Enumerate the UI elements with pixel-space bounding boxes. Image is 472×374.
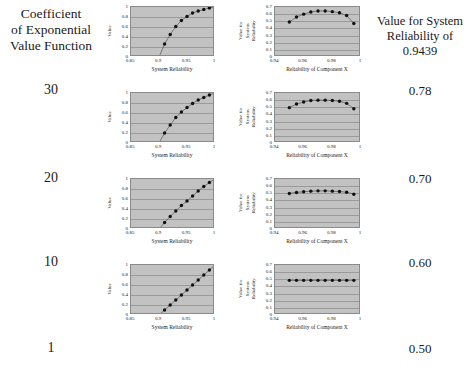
chart-component-x-coef-20: Value for System Reliability0.70.60.50.4… xyxy=(238,90,378,174)
y-axis-title: Value for System Reliability xyxy=(238,262,258,316)
left-header-line1: Coefficient xyxy=(0,6,102,22)
plot-area xyxy=(274,6,360,56)
x-tick-label: 0.94 xyxy=(270,144,279,150)
y-tick-labels: 10.80.60.40.20 xyxy=(113,92,129,142)
x-tick-label: 0.85 xyxy=(126,316,135,322)
y-tick-label: 0.6 xyxy=(266,11,272,16)
x-tick-label: 0.9 xyxy=(155,58,161,64)
right-column-header: Value for System Reliability of 0.9439 xyxy=(368,14,472,59)
y-tick-label: 0.7 xyxy=(266,90,272,95)
y-tick-label: 0.6 xyxy=(266,269,272,274)
x-tick-label: 1 xyxy=(359,144,362,150)
x-tick-label: 1 xyxy=(213,58,216,64)
chart-component-x-coef-10: Value for System Reliability0.70.60.50.4… xyxy=(238,176,378,260)
plot-area xyxy=(274,264,360,314)
y-tick-label: 0.4 xyxy=(122,34,128,39)
y-axis-title: Value for System Reliability xyxy=(238,4,258,58)
y-tick-label: 0.6 xyxy=(266,183,272,188)
y-tick-label: 0.4 xyxy=(266,283,272,288)
chart-value-function-coef-30: Value10.80.60.40.200.850.90.951System Re… xyxy=(104,4,228,88)
plot-area xyxy=(130,178,214,228)
y-tick-label: 0.4 xyxy=(266,197,272,202)
y-tick-labels: 10.80.60.40.20 xyxy=(113,6,129,56)
plot-area xyxy=(130,264,214,314)
x-tick-label: 1 xyxy=(359,58,362,64)
chart-component-x-coef-30: Value for System Reliability0.70.60.50.4… xyxy=(238,4,378,88)
x-tick-label: 0.9 xyxy=(155,144,161,150)
y-tick-label: 0.4 xyxy=(122,120,128,125)
system-value-row-3: 0.50 xyxy=(368,341,472,357)
x-tick-label: 0.96 xyxy=(298,144,307,150)
y-tick-label: 0.1 xyxy=(266,304,272,309)
x-tick-label: 0.94 xyxy=(270,58,279,64)
left-header-line2: of Exponential xyxy=(0,22,102,38)
plot-area xyxy=(130,92,214,142)
x-tick-label: 0.9 xyxy=(155,316,161,322)
y-tick-label: 0.2 xyxy=(122,216,128,221)
chart-component-x-coef-1: Value for System Reliability0.70.60.50.4… xyxy=(238,262,378,346)
chart-value-function-coef-20: Value10.80.60.40.200.850.90.951System Re… xyxy=(104,90,228,174)
right-header-line1: Value for System xyxy=(368,14,472,29)
y-tick-labels: 10.80.60.40.20 xyxy=(113,264,129,314)
y-tick-label: 0.4 xyxy=(122,206,128,211)
x-tick-label: 0.85 xyxy=(126,230,135,236)
x-tick-label: 0.95 xyxy=(182,230,191,236)
x-tick-label: 0.96 xyxy=(298,316,307,322)
y-tick-label: 0.2 xyxy=(122,130,128,135)
y-tick-label: 0.2 xyxy=(266,125,272,130)
y-axis-title: Value for System Reliability xyxy=(238,90,258,144)
y-tick-label: 0.7 xyxy=(266,262,272,267)
x-tick-label: 0.96 xyxy=(298,230,307,236)
y-tick-label: 0.6 xyxy=(122,282,128,287)
x-tick-label: 1 xyxy=(359,316,362,322)
y-tick-label: 0.3 xyxy=(266,32,272,37)
y-tick-label: 0.8 xyxy=(122,272,128,277)
y-tick-label: 1 xyxy=(126,4,129,9)
y-tick-label: 0.2 xyxy=(122,44,128,49)
y-tick-labels: 0.70.60.50.40.30.20.10 xyxy=(257,178,273,228)
plot-area xyxy=(274,178,360,228)
x-axis-title: Reliability of Component X xyxy=(274,238,360,245)
x-axis-title: System Reliability xyxy=(130,152,214,159)
system-value-row-1: 0.70 xyxy=(368,171,472,187)
y-tick-label: 0.3 xyxy=(266,290,272,295)
x-axis-title: System Reliability xyxy=(130,324,214,331)
plot-area xyxy=(274,92,360,142)
y-tick-label: 0.2 xyxy=(122,302,128,307)
x-tick-label: 1 xyxy=(213,230,216,236)
x-axis-title: Reliability of Component X xyxy=(274,324,360,331)
coefficient-label-row-1: 20 xyxy=(0,170,102,186)
y-tick-label: 0.4 xyxy=(122,292,128,297)
y-tick-label: 0.7 xyxy=(266,176,272,181)
y-tick-labels: 0.70.60.50.40.30.20.10 xyxy=(257,6,273,56)
y-tick-label: 0.4 xyxy=(266,111,272,116)
system-value-row-2: 0.60 xyxy=(368,255,472,271)
x-axis-title: System Reliability xyxy=(130,238,214,245)
y-tick-label: 0.6 xyxy=(122,110,128,115)
x-tick-label: 0.98 xyxy=(327,144,336,150)
y-tick-label: 0.1 xyxy=(266,218,272,223)
x-tick-label: 0.85 xyxy=(126,58,135,64)
x-tick-label: 0.98 xyxy=(327,316,336,322)
y-tick-label: 0.8 xyxy=(122,100,128,105)
y-tick-label: 0.8 xyxy=(122,186,128,191)
right-header-line2: Reliability of xyxy=(368,29,472,44)
y-tick-label: 0.2 xyxy=(266,211,272,216)
x-tick-label: 0.95 xyxy=(182,316,191,322)
y-tick-label: 0.6 xyxy=(122,24,128,29)
x-tick-label: 0.96 xyxy=(298,58,307,64)
y-tick-label: 0.5 xyxy=(266,104,272,109)
x-tick-label: 0.95 xyxy=(182,144,191,150)
x-tick-label: 1 xyxy=(213,144,216,150)
left-header-line3: Value Function xyxy=(0,38,102,54)
y-tick-label: 0.6 xyxy=(122,196,128,201)
y-tick-label: 0.3 xyxy=(266,204,272,209)
x-axis-title: System Reliability xyxy=(130,66,214,73)
y-tick-label: 1 xyxy=(126,90,129,95)
y-tick-labels: 0.70.60.50.40.30.20.10 xyxy=(257,264,273,314)
x-tick-label: 0.94 xyxy=(270,230,279,236)
y-tick-label: 1 xyxy=(126,262,129,267)
plot-area xyxy=(130,6,214,56)
y-tick-label: 0.8 xyxy=(122,14,128,19)
left-column-header: Coefficient of Exponential Value Functio… xyxy=(0,6,102,54)
